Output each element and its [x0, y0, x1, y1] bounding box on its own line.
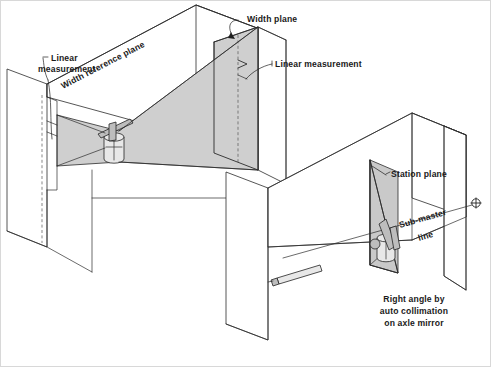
right-backing-plane — [258, 27, 286, 184]
collimator-telescope — [268, 265, 322, 286]
instrument-left-post — [109, 122, 116, 141]
caption-line-3: on axle mirror — [384, 318, 444, 328]
collimator-eyepiece — [271, 278, 279, 286]
label-linear-measurement-left-line1: Linear — [51, 53, 78, 63]
axle-mirror-icon — [370, 239, 380, 249]
floor-edge-front-left — [47, 247, 92, 272]
left-notch-lower — [47, 166, 57, 190]
label-linear-measurement-right: Linear measurement — [275, 59, 362, 69]
technical-diagram-figure: Linear measurement Width reference plane… — [0, 0, 491, 367]
right-group-far-plane — [444, 126, 466, 290]
diagram-canvas: Linear measurement Width reference plane… — [0, 0, 491, 367]
collimator-barrel — [277, 265, 322, 284]
caption-line-2: auto collimation — [380, 306, 448, 316]
left-measurement-tick — [47, 121, 57, 125]
label-station-plane: Station plane — [391, 169, 447, 179]
right-group-left-plane — [226, 172, 268, 340]
crosshair-target-icon — [471, 198, 482, 209]
left-end-plane — [7, 69, 47, 247]
caption-line-1: Right angle by — [383, 294, 444, 304]
label-width-plane: Width plane — [247, 14, 297, 24]
